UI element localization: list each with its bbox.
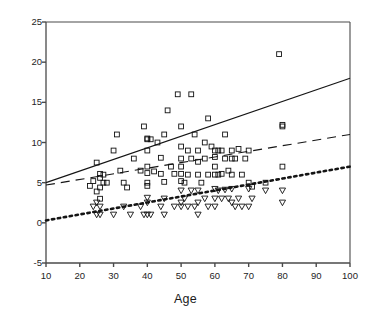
- data-point-triangle: [127, 212, 133, 218]
- data-point-square: [162, 132, 167, 137]
- data-point-square: [104, 180, 109, 185]
- x-axis-label: Age: [0, 292, 371, 306]
- data-point-triangle: [212, 204, 218, 210]
- data-point-square: [236, 147, 241, 152]
- data-point-square: [115, 132, 120, 137]
- data-point-square: [219, 148, 224, 153]
- data-point-square: [206, 172, 211, 177]
- data-point-square: [189, 156, 194, 161]
- data-point-square: [280, 164, 285, 169]
- data-point-triangle: [205, 204, 211, 210]
- data-point-triangle: [178, 200, 184, 206]
- data-point-triangle: [195, 212, 201, 218]
- data-point-square: [223, 132, 228, 137]
- x-tick-label: 70: [235, 270, 263, 281]
- data-point-square: [179, 164, 184, 169]
- data-point-square: [240, 172, 245, 177]
- data-point-triangle: [232, 204, 238, 210]
- data-point-square: [212, 172, 217, 177]
- data-point-square: [216, 148, 221, 153]
- y-tick-label: 5: [14, 177, 42, 188]
- y-tick-label: 15: [14, 96, 42, 107]
- data-point-square: [121, 180, 126, 185]
- data-point-triangle: [185, 204, 191, 210]
- data-point-square: [199, 180, 204, 185]
- data-point-triangle: [279, 188, 285, 194]
- data-point-square: [91, 179, 96, 184]
- data-point-square: [131, 156, 136, 161]
- data-point-square: [229, 156, 234, 161]
- y-tick-label: 20: [14, 56, 42, 67]
- solid-regression: [46, 78, 350, 182]
- data-point-square: [233, 156, 238, 161]
- data-point-square: [182, 180, 187, 185]
- x-tick-label: 100: [336, 270, 364, 281]
- data-point-triangle: [262, 188, 268, 194]
- data-point-square: [179, 171, 184, 176]
- data-point-triangle: [225, 196, 231, 202]
- data-point-triangle: [195, 200, 201, 206]
- chart-figure: Number of wild plants known per person A…: [0, 0, 371, 319]
- data-point-square: [212, 164, 217, 169]
- data-point-square: [196, 148, 201, 153]
- x-tick-label: 30: [100, 270, 128, 281]
- y-tick-label: -5: [14, 257, 42, 268]
- data-point-square: [246, 148, 251, 153]
- data-point-square: [165, 108, 170, 113]
- data-point-square: [185, 148, 190, 153]
- data-point-triangle: [110, 212, 116, 218]
- data-point-square: [172, 171, 177, 176]
- data-point-triangle: [94, 200, 100, 206]
- data-point-triangle: [90, 204, 96, 210]
- data-point-square: [280, 122, 285, 127]
- data-point-triangle: [161, 212, 167, 218]
- data-point-triangle: [192, 204, 198, 210]
- data-point-triangle: [219, 196, 225, 202]
- data-point-triangle: [171, 204, 177, 210]
- x-tick-label: 20: [66, 270, 94, 281]
- data-point-triangle: [178, 188, 184, 194]
- data-point-triangle: [229, 200, 235, 206]
- data-point-square: [158, 155, 163, 160]
- data-point-triangle: [279, 200, 285, 206]
- data-point-square: [125, 185, 130, 190]
- data-point-square: [179, 144, 184, 149]
- data-point-square: [145, 171, 150, 176]
- x-tick-label: 60: [201, 270, 229, 281]
- data-point-square: [179, 124, 184, 129]
- data-point-square: [229, 148, 234, 153]
- data-point-square: [206, 116, 211, 121]
- data-point-square: [277, 52, 282, 57]
- y-tick-label: 10: [14, 137, 42, 148]
- data-point-square: [202, 140, 207, 145]
- data-point-triangle: [212, 196, 218, 202]
- data-point-square: [152, 169, 157, 174]
- data-point-square: [142, 124, 147, 129]
- data-point-square: [158, 171, 163, 176]
- data-point-triangle: [202, 196, 208, 202]
- data-point-square: [145, 180, 150, 185]
- data-point-square: [162, 179, 167, 184]
- data-point-triangle: [249, 196, 255, 202]
- data-point-triangle: [158, 204, 164, 210]
- data-point-square: [280, 124, 285, 129]
- data-point-square: [196, 172, 201, 177]
- y-tick-label: 0: [14, 217, 42, 228]
- data-point-triangle: [239, 204, 245, 210]
- data-point-square: [223, 156, 228, 161]
- data-point-triangle: [235, 196, 241, 202]
- data-point-square: [175, 92, 180, 97]
- y-tick-label: 25: [14, 16, 42, 27]
- x-tick-label: 50: [167, 270, 195, 281]
- x-tick-label: 90: [302, 270, 330, 281]
- data-point-triangle: [97, 204, 103, 210]
- data-point-square: [101, 180, 106, 185]
- data-point-square: [111, 148, 116, 153]
- data-point-square: [179, 156, 184, 161]
- data-point-square: [202, 156, 207, 161]
- data-point-triangle: [246, 204, 252, 210]
- data-point-square: [145, 164, 150, 169]
- data-point-square: [243, 156, 248, 161]
- data-point-square: [189, 92, 194, 97]
- data-point-square: [88, 183, 93, 188]
